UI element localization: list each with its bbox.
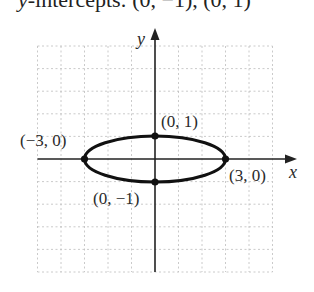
label-point-neg3-0: (−3, 0) [20, 131, 66, 150]
label-point-0-1: (0, 1) [161, 112, 198, 131]
label-point-0-neg1: (0, −1) [93, 189, 139, 208]
x-axis-label: x [288, 162, 297, 182]
label-point-3-0: (3, 0) [229, 166, 266, 185]
point-0-neg1 [151, 178, 158, 185]
axes [38, 36, 291, 272]
ellipse-graph: y x (−3, 0) (3, 0) (0, 1) (0, −1) [0, 0, 314, 292]
point-0-1 [151, 132, 158, 139]
point-3-0 [222, 155, 229, 162]
y-axis-arrow-icon [151, 28, 160, 40]
point-neg3-0 [81, 155, 88, 162]
y-axis-label: y [135, 29, 145, 49]
